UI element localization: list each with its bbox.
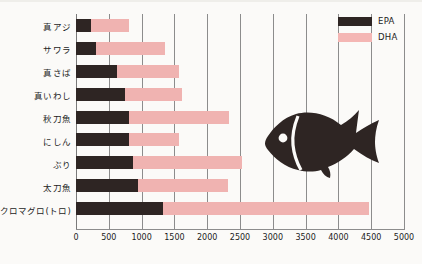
category-label: ぶり (53, 158, 71, 170)
x-tick-label-1000: 1000 (131, 233, 151, 242)
bar-row (76, 42, 404, 55)
category-label: サワラ (43, 43, 71, 55)
bar-row (76, 88, 404, 101)
bar-segment-epa (76, 65, 117, 78)
bar-segment-epa (76, 156, 133, 169)
chart-container: 真アジサワラ真さば真いわし秋刀魚にしんぶり太刀魚クロマグロ(トロ) 050010… (0, 0, 422, 264)
legend-label-dha: DHA (378, 32, 398, 42)
bar-segment-dha (125, 88, 182, 101)
bar-segment-dha (129, 133, 179, 146)
category-label: 太刀魚 (43, 181, 71, 193)
category-label: 真さば (43, 66, 71, 78)
bar-rows (76, 14, 404, 220)
bar-segment-dha (91, 19, 129, 32)
category-label: クロマグロ(トロ) (0, 204, 71, 216)
x-tick-label-0: 0 (73, 233, 78, 242)
bar-segment-dha (138, 179, 228, 192)
bar-segment-dha (96, 42, 165, 55)
bar-row (76, 65, 404, 78)
x-axis-ticks: 0500100015002000250030003500400045005000 (76, 233, 404, 253)
x-tick-label-5000: 5000 (394, 233, 414, 242)
category-axis: 真アジサワラ真さば真いわし秋刀魚にしんぶり太刀魚クロマグロ(トロ) (0, 14, 74, 220)
category-label: にしん (43, 135, 71, 147)
bar-segment-dha (133, 156, 242, 169)
gridline-5000 (404, 14, 405, 230)
x-tick-label-2500: 2500 (230, 233, 250, 242)
bar-segment-epa (76, 42, 96, 55)
bar-row (76, 111, 404, 124)
bar-segment-epa (76, 133, 129, 146)
bar-segment-epa (76, 111, 129, 124)
bar-segment-dha (117, 65, 179, 78)
legend-swatch-dha (338, 33, 372, 42)
bar-row (76, 202, 404, 215)
bar-segment-epa (76, 19, 91, 32)
bar-row (76, 179, 404, 192)
legend-swatch-epa (338, 17, 372, 26)
category-label: 真いわし (34, 89, 71, 101)
x-tick-label-4500: 4500 (361, 233, 381, 242)
legend-label-epa: EPA (378, 16, 395, 26)
legend-item-epa: EPA (338, 16, 398, 26)
category-label: 秋刀魚 (43, 112, 71, 124)
bar-segment-dha (163, 202, 368, 215)
x-tick-label-2000: 2000 (197, 233, 217, 242)
bar-segment-dha (129, 111, 229, 124)
x-tick-label-3000: 3000 (263, 233, 283, 242)
plot-area (76, 14, 404, 230)
x-tick-label-500: 500 (101, 233, 116, 242)
chart-legend: EPA DHA (338, 16, 398, 42)
bar-segment-epa (76, 179, 138, 192)
bar-segment-epa (76, 202, 163, 215)
x-tick-label-3500: 3500 (295, 233, 315, 242)
bar-segment-epa (76, 88, 125, 101)
x-tick-label-4000: 4000 (328, 233, 348, 242)
x-tick-label-1500: 1500 (164, 233, 184, 242)
category-label: 真アジ (43, 20, 71, 32)
legend-item-dha: DHA (338, 32, 398, 42)
bar-row (76, 156, 404, 169)
bar-row (76, 133, 404, 146)
x-axis-line (76, 229, 404, 230)
top-edge (0, 0, 422, 2)
